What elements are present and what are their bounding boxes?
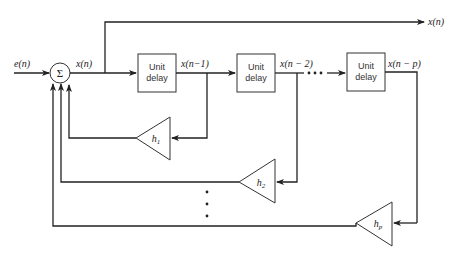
- svg-text:delay: delay: [146, 73, 168, 83]
- tap1-line: [172, 73, 207, 138]
- summer-output-label: x(n): [75, 58, 93, 70]
- svg-text:delay: delay: [245, 73, 267, 83]
- tap2-line: [277, 73, 297, 182]
- delay-block-p: Unit delay: [347, 53, 385, 91]
- svg-text:Unit: Unit: [149, 62, 166, 72]
- delayp-output-label: x(n − p): [387, 58, 422, 70]
- gain-h2: h2: [239, 159, 275, 203]
- feedback-1: [69, 85, 136, 138]
- output-label: x(n): [427, 16, 445, 28]
- delayp-output-line: [385, 72, 417, 223]
- block-diagram: e(n) Σ x(n) x(n) Unit delay x(n−1) Unit …: [0, 0, 462, 256]
- delay2-output-label: x(n − 2): [279, 58, 314, 70]
- vertical-ellipsis: [206, 191, 209, 218]
- svg-text:Unit: Unit: [248, 62, 265, 72]
- feedback-p: [53, 84, 356, 226]
- gain-h1: h1: [136, 117, 170, 160]
- gain-hp: hp: [356, 202, 392, 246]
- sigma-symbol: Σ: [57, 67, 63, 79]
- input-label: e(n): [14, 58, 31, 70]
- horizontal-ellipsis: [308, 72, 323, 75]
- summing-junction: Σ: [50, 63, 70, 83]
- delay-block-2: Unit delay: [237, 54, 275, 92]
- delay1-output-label: x(n−1): [180, 58, 210, 70]
- svg-text:delay: delay: [355, 72, 377, 82]
- svg-text:Unit: Unit: [358, 61, 375, 71]
- delay-block-1: Unit delay: [138, 54, 176, 92]
